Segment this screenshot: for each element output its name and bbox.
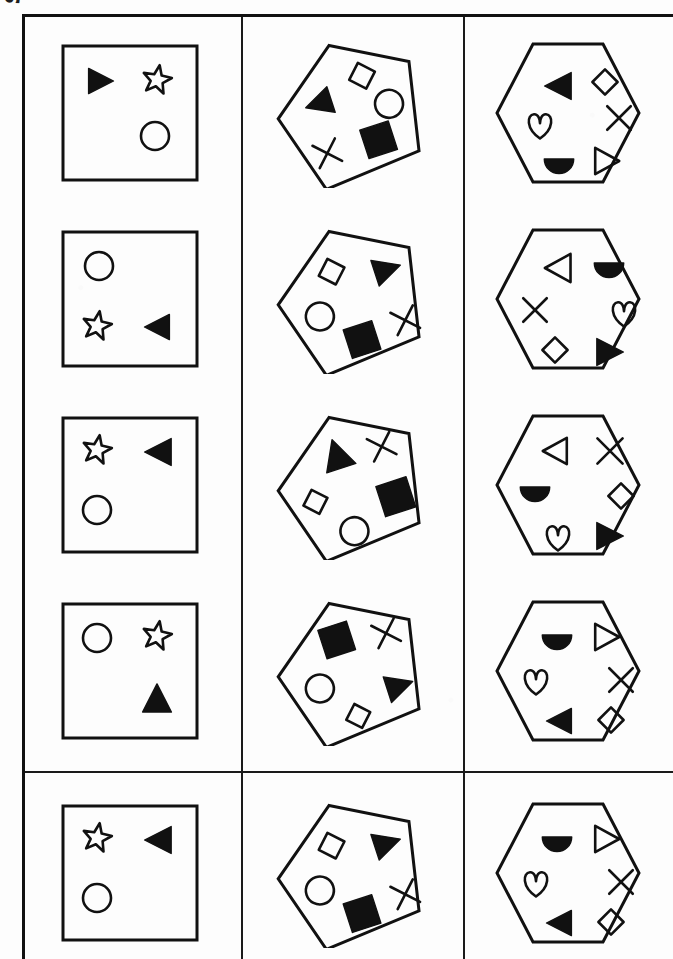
figure-pentagon <box>276 798 426 948</box>
circle-outline <box>83 884 111 912</box>
heart-outline <box>546 526 568 550</box>
triangle-left-outline <box>544 254 570 282</box>
diamond-outline <box>315 255 349 289</box>
diamond-outline <box>592 69 617 94</box>
figure-hexagon <box>493 596 643 746</box>
triangle-up-filled <box>318 435 356 473</box>
hexagon-outline <box>497 230 639 368</box>
triangle-up-filled <box>143 684 172 712</box>
figure-cell-r5-c2[interactable] <box>240 784 462 959</box>
circle-outline <box>85 252 113 280</box>
circle-outline <box>371 86 406 121</box>
semicircle-filled <box>544 159 573 174</box>
triangle-left-outline <box>542 438 566 464</box>
square-filled <box>376 477 416 517</box>
figure-cell-r4-c3[interactable] <box>462 582 673 760</box>
triangle-left-filled <box>302 87 336 121</box>
triangle-left-filled <box>544 73 571 100</box>
figure-square <box>55 798 205 948</box>
triangle-right-filled <box>371 826 405 860</box>
circle-outline <box>141 122 169 150</box>
diamond-outline <box>542 337 567 362</box>
triangle-left-filled <box>546 910 571 935</box>
cross-x <box>609 668 633 692</box>
figure-cell-r3-c3[interactable] <box>462 396 673 574</box>
circle-outline <box>302 299 337 334</box>
figure-cell-r2-c1[interactable] <box>22 210 238 388</box>
figure-pentagon <box>276 38 426 188</box>
cross-x <box>312 138 342 168</box>
pentagon-outline <box>276 38 426 188</box>
cross-x <box>607 106 631 130</box>
figure-cell-r5-c3[interactable] <box>462 784 673 959</box>
triangle-right-filled <box>596 339 623 366</box>
figure-pentagon <box>276 224 426 374</box>
figure-pentagon <box>276 596 426 746</box>
heart-outline <box>524 872 546 896</box>
triangle-right-filled <box>89 68 114 93</box>
figure-cell-r4-c2[interactable] <box>240 582 462 760</box>
figure-cell-r3-c2[interactable] <box>240 396 462 574</box>
figure-hexagon <box>493 38 643 188</box>
square-filled <box>343 895 381 933</box>
figure-square <box>55 224 205 374</box>
star-outline <box>144 65 172 93</box>
circle-outline <box>302 671 337 706</box>
star-outline <box>84 311 112 339</box>
figure-pentagon <box>276 410 426 560</box>
cross-x <box>371 618 401 648</box>
figure-hexagon <box>493 410 643 560</box>
square-filled <box>343 321 381 359</box>
figure-square <box>55 410 205 560</box>
circle-outline <box>83 496 111 524</box>
triangle-left-filled <box>145 827 172 854</box>
star-outline <box>84 823 112 851</box>
diamond-outline <box>598 909 623 934</box>
square-filled <box>360 121 398 159</box>
semicircle-filled <box>542 837 571 852</box>
triangle-left-filled <box>546 708 571 733</box>
figure-cell-r3-c1[interactable] <box>22 396 238 574</box>
circle-outline <box>302 873 337 908</box>
star-outline <box>84 435 112 463</box>
figure-cell-r2-c2[interactable] <box>240 210 462 388</box>
figure-cell-r5-c1[interactable] <box>22 784 238 959</box>
triangle-left-filled <box>145 439 172 466</box>
heart-outline <box>524 670 546 694</box>
margin-note-clip: sapera <box>0 0 24 230</box>
figure-grid <box>22 14 673 959</box>
triangle-right-filled <box>596 523 623 550</box>
figure-cell-r1-c3[interactable] <box>462 24 673 202</box>
figure-cell-r1-c1[interactable] <box>22 24 238 202</box>
square-outline <box>63 806 197 940</box>
diamond-outline <box>342 700 374 732</box>
star-outline <box>144 621 172 649</box>
cross-x <box>367 432 397 462</box>
figure-hexagon <box>493 224 643 374</box>
semicircle-filled <box>520 487 549 502</box>
figure-cell-r1-c2[interactable] <box>240 24 462 202</box>
diamond-outline <box>300 486 332 518</box>
margin-note-text: sapera <box>0 0 24 6</box>
square-outline <box>63 232 197 366</box>
circle-outline <box>83 624 111 652</box>
triangle-right-filled <box>383 669 417 703</box>
cross-x <box>597 438 622 463</box>
worksheet-page: sapera <box>0 0 673 959</box>
diamond-outline <box>598 707 623 732</box>
figure-square <box>55 596 205 746</box>
diamond-outline <box>315 829 349 863</box>
figure-cell-r2-c3[interactable] <box>462 210 673 388</box>
heart-outline <box>528 114 550 138</box>
triangle-left-filled <box>145 314 170 339</box>
square-outline <box>63 604 197 738</box>
square-outline <box>63 418 197 552</box>
cross-x <box>609 870 633 894</box>
cross-x <box>523 298 547 322</box>
figure-hexagon <box>493 798 643 948</box>
square-filled <box>318 621 356 659</box>
figure-cell-r4-c1[interactable] <box>22 582 238 760</box>
triangle-right-filled <box>371 252 405 286</box>
square-outline <box>63 46 197 180</box>
semicircle-filled <box>594 263 623 278</box>
